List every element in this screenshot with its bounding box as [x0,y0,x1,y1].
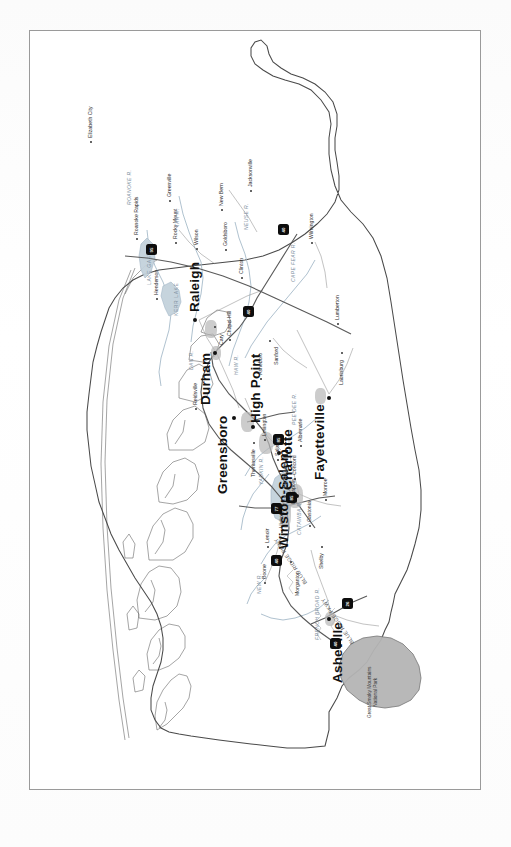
shield-number: 40 [271,556,282,567]
interstate-shield-icon[interactable]: 40 [330,639,341,650]
water-label-haw-river: HAW R. [234,355,239,375]
water-label-french-broad-river: FRENCH BROAD R. [315,588,320,640]
great-smoky-mountains-park [339,636,421,708]
city-label-lumberton: Lumberton [335,295,340,320]
city-dot [232,416,236,420]
shield-number: 77 [271,504,282,515]
city-label-laurinburg: Laurinburg [339,360,344,385]
map-viewport[interactable]: Raleigh Durham Greensboro High Point Win… [29,30,481,790]
water-label-kerr-lake: KERR LAKE [174,283,179,316]
city-label-lexington: Lexington [262,414,267,437]
water-label-neuse-river: NEUSE R. [244,203,249,230]
shield-number: 40 [243,307,254,318]
interstate-shield-icon[interactable]: 85 [273,435,284,446]
city-label-asheboro: Asheboro [258,353,263,375]
city-label-fayetteville: Fayetteville [313,404,327,480]
city-label-henderson: Henderson [154,270,159,295]
interstate-shield-icon[interactable]: 77 [271,504,282,515]
shield-number: 95 [146,245,157,256]
shield-number: 40 [278,225,289,236]
city-label-roanoke-rapids: Roanoke Rapids [134,197,139,235]
shield-number: 26 [342,599,353,610]
city-label-albemarle: Albemarle [298,419,303,442]
rotated-map-stage: Raleigh Durham Greensboro High Point Win… [29,30,481,790]
water-label-tar-river: TAR R. [175,209,180,227]
city-dot [193,318,197,322]
park-label-great-smoky-mountains: Great Smoky Mountains National Park [367,667,379,718]
city-label-reidsville: Reidsville [193,383,198,405]
park-label-line2: National Park [373,667,379,718]
interstate-shield-icon[interactable]: 26 [342,599,353,610]
interstate-shield-icon[interactable]: 95 [146,245,157,256]
city-label-new-bern: New Bern [219,183,224,206]
city-label-boone: Boone [262,564,267,579]
city-label-durham: Durham [199,353,213,405]
city-dot [251,425,255,429]
city-label-cary: Cary [219,334,224,345]
shield-number: 85 [273,435,284,446]
urban-area-raleigh [205,320,217,338]
city-label-greensboro: Greensboro [216,415,230,494]
city-label-clinton: Clinton [239,258,244,274]
city-label-goldsboro: Goldsboro [223,222,228,246]
city-label-greenville: Greenville [167,174,172,197]
water-label-yadkin-river: YADKIN R. [259,457,264,485]
water-label-roanoke-river: ROANOKE R. [127,170,132,205]
city-dot [327,396,331,400]
city-label-lenoir: Lenoir [265,529,270,543]
city-label-monroe: Monroe [323,478,328,496]
city-label-gastonia: Gastonia [307,501,312,522]
water-label-cape-fear-river: CAPE FEAR R. [291,242,296,282]
interstate-shield-icon[interactable]: 40 [278,225,289,236]
interstate-shield-icon[interactable]: 85 [286,493,297,504]
city-label-thomasville: Thomasville [251,449,256,477]
city-label-chapel-hill: Chapel Hill [227,311,232,336]
interstate-shield-icon[interactable]: 40 [243,307,254,318]
shield-number: 40 [330,639,341,650]
city-label-jacksonville: Jacksonville [248,159,253,187]
city-label-elizabeth-city: Elizabeth City [88,106,93,138]
city-label-wilmington: Wilmington [309,213,314,239]
water-label-pee-dee-river: PEE DEE R. [292,393,297,425]
city-label-wilson: Wilson [194,229,199,245]
interstate-shield-icon[interactable]: 40 [271,556,282,567]
water-label-catawba-river: CATAWBA R. [297,501,302,535]
city-label-sanford: Sanford [274,347,279,365]
urban-area-fayetteville [315,388,326,404]
city-dot [213,351,217,355]
map-page: Raleigh Durham Greensboro High Point Win… [0,0,511,847]
city-label-shelby: Shelby [319,553,324,569]
city-label-concord: Concord [292,455,297,475]
water-label-dan-river: DAN R. [189,351,194,370]
city-label-raleigh: Raleigh [188,262,202,312]
water-label-new-river: NEW R. [257,574,262,594]
shield-number: 85 [286,493,297,504]
